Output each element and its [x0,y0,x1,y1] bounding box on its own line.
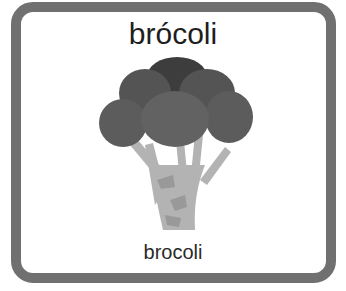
card-subtitle: brocoli [0,240,346,264]
card-title: brócoli [0,17,346,51]
broccoli-icon [95,55,255,230]
